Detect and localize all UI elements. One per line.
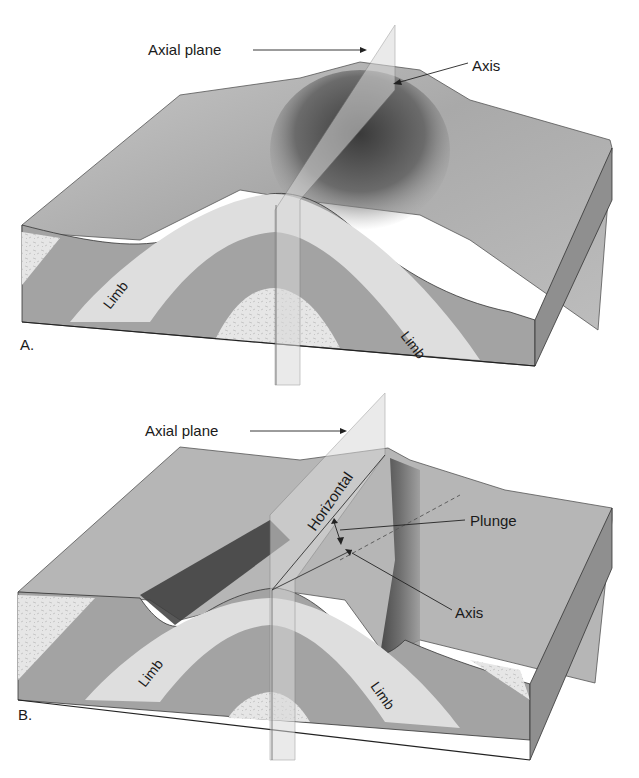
plunge-label: Plunge [470,512,517,529]
arrow-head-icon [360,47,367,53]
panel-label-a: A. [20,336,34,353]
panel-a-block [22,62,612,366]
axis-label-b: Axis [455,604,483,621]
anticline-figure: Axial plane Axis Limb Limb A. [0,0,639,778]
axis-label-a: Axis [472,57,500,74]
panel-label-b: B. [18,706,32,723]
axial-plane-label-b: Axial plane [145,422,218,439]
arrow-head-icon [340,428,347,434]
axial-plane-label-a: Axial plane [148,41,221,58]
